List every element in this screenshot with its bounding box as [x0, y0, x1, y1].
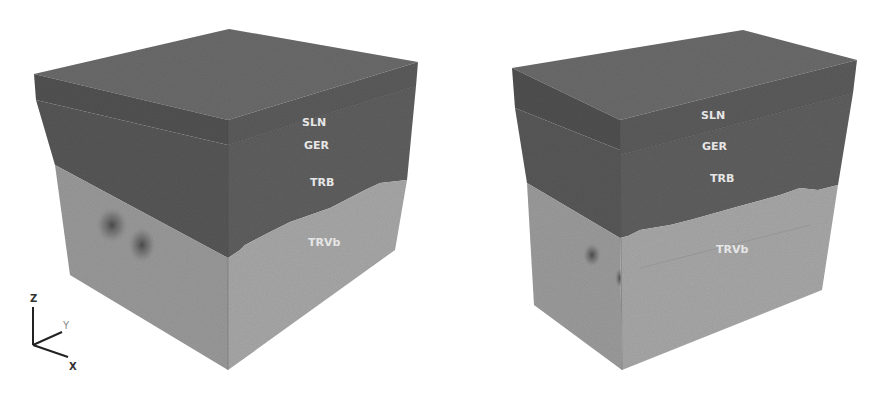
left-label-ger: GER — [304, 139, 330, 152]
left-anomaly-1 — [96, 207, 128, 243]
right-label-ger: GER — [702, 140, 728, 153]
left-anomaly-2 — [128, 227, 156, 263]
left-block-model — [34, 29, 418, 370]
left-label-trb: TRB — [310, 176, 334, 189]
x-axis-line — [33, 345, 68, 357]
y-axis-line — [33, 332, 62, 345]
x-axis-label: X — [69, 361, 77, 372]
geological-block-figure: SLN GER TRB TRVb Z Y X SLN GER TRB TRVb — [0, 0, 881, 398]
axis-triad: Z Y X — [30, 293, 77, 372]
left-label-trvb: TRVb — [308, 236, 340, 249]
right-label-trvb: TRVb — [716, 243, 748, 256]
left-label-sln: SLN — [302, 116, 326, 129]
right-block-model — [512, 30, 857, 370]
z-axis-label: Z — [30, 293, 37, 304]
right-anomaly-1 — [583, 243, 601, 267]
right-label-sln: SLN — [701, 109, 725, 122]
y-axis-label: Y — [62, 320, 70, 331]
right-label-trb: TRB — [710, 172, 734, 185]
